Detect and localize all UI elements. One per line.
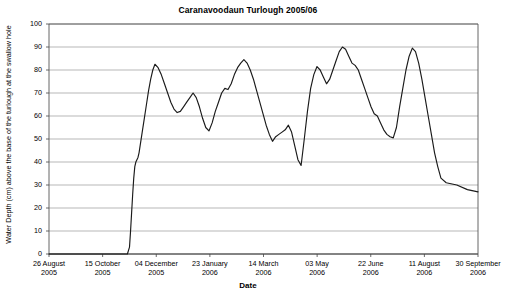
x-axis-title: Date bbox=[0, 281, 496, 290]
gridlines bbox=[49, 24, 478, 254]
axis-tickmarks bbox=[46, 24, 478, 257]
data-series-line bbox=[49, 47, 478, 254]
